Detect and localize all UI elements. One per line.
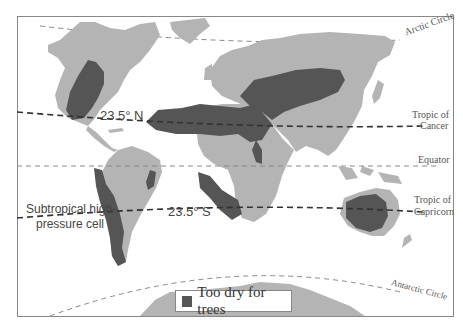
- south-latitude-label: 23.5° S: [168, 204, 211, 219]
- tropic-of-capricorn-label-2: Capricorn: [414, 206, 454, 217]
- equator-label: Equator: [418, 154, 450, 165]
- tropic-of-cancer-label-2: Cancer: [420, 120, 449, 131]
- legend-label: Too dry for trees: [197, 284, 291, 318]
- pressure-cell-label-2: pressure cell: [36, 217, 104, 231]
- world-map: Arctic Circle Tropic of Cancer Equator T…: [0, 0, 463, 326]
- tropic-of-cancer-label-1: Tropic of: [412, 109, 450, 120]
- dry-swatch-icon: [182, 296, 192, 307]
- legend: Too dry for trees: [175, 290, 292, 312]
- north-latitude-label: 23.5° N: [100, 108, 144, 123]
- tropic-of-capricorn-label-1: Tropic of: [414, 194, 452, 205]
- pressure-cell-label-1: Subtropical high-: [26, 202, 116, 216]
